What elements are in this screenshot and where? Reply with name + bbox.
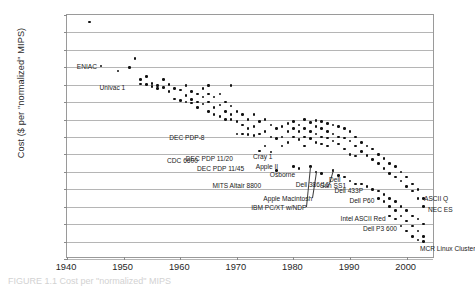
data-point <box>117 70 120 73</box>
data-point <box>241 124 244 127</box>
data-point <box>230 113 233 116</box>
data-point <box>354 183 357 186</box>
annotation-label: ENIAC <box>77 62 97 69</box>
data-point <box>343 137 346 140</box>
data-point <box>349 140 352 143</box>
data-point <box>422 240 425 243</box>
x-tick-label: 1990 <box>324 262 374 272</box>
x-tick-label: 1960 <box>154 262 204 272</box>
data-point <box>417 218 420 221</box>
annotation-label: Apple II <box>256 162 278 169</box>
data-point <box>343 148 346 151</box>
data-point <box>303 127 306 130</box>
x-tick-label: 1950 <box>98 262 148 272</box>
data-point <box>337 125 340 128</box>
annotation-label: DEC PDP-8 <box>169 134 204 141</box>
data-point <box>337 143 340 146</box>
gridline <box>67 50 433 51</box>
data-point <box>354 155 357 158</box>
data-point <box>264 145 267 148</box>
data-point <box>371 188 374 191</box>
y-tick-mark <box>64 15 67 16</box>
gridline <box>67 32 433 33</box>
gridline <box>67 172 433 173</box>
data-point <box>139 78 142 81</box>
gridline <box>67 207 433 208</box>
data-point <box>196 93 199 96</box>
data-point <box>411 215 414 218</box>
data-point <box>219 93 222 96</box>
annotation-label: IBM PC/XT w/NDP <box>251 203 306 210</box>
data-point <box>388 162 391 165</box>
data-point <box>298 124 301 127</box>
data-point <box>388 205 391 208</box>
data-point <box>422 205 425 208</box>
x-tick-label: 1980 <box>267 262 317 272</box>
data-point <box>196 106 199 109</box>
data-point <box>281 145 284 148</box>
gridline <box>67 259 433 260</box>
data-point <box>411 183 414 186</box>
y-tick-mark <box>64 32 67 33</box>
y-tick-mark <box>64 207 67 208</box>
y-tick-mark <box>64 224 67 225</box>
data-point <box>236 133 239 136</box>
data-point <box>241 113 244 116</box>
data-point <box>241 133 244 136</box>
data-point <box>360 141 363 144</box>
y-tick-mark <box>64 120 67 121</box>
data-point <box>343 127 346 130</box>
annotation-label: Osborne <box>270 170 295 177</box>
data-point <box>332 133 335 136</box>
x-tick-label: 1970 <box>211 262 261 272</box>
y-tick-mark <box>64 67 67 68</box>
y-tick-mark <box>64 50 67 51</box>
data-point <box>298 138 301 141</box>
data-point <box>298 130 301 133</box>
data-point <box>258 133 261 136</box>
gridline <box>67 137 433 138</box>
data-point <box>383 167 386 170</box>
data-point <box>247 133 250 136</box>
data-point <box>258 150 261 153</box>
annotation-label: NEC ES <box>428 205 453 212</box>
data-point <box>388 215 391 218</box>
data-point <box>405 230 408 233</box>
gridline <box>67 120 433 121</box>
data-point <box>377 162 380 165</box>
data-point <box>230 105 233 108</box>
data-point <box>360 183 363 186</box>
data-point <box>400 180 403 183</box>
data-point <box>151 85 154 88</box>
data-point <box>292 127 295 130</box>
x-tick-mark <box>124 257 125 260</box>
annotation-label: DEC PDP 11/45 <box>197 164 244 171</box>
data-point <box>247 127 250 130</box>
data-point <box>388 197 391 200</box>
data-point <box>173 87 176 90</box>
data-point <box>366 185 369 188</box>
data-point <box>213 106 216 109</box>
gridline <box>67 67 433 68</box>
data-point <box>315 125 318 128</box>
data-point <box>417 230 420 233</box>
data-point <box>88 21 91 24</box>
y-tick-mark <box>64 172 67 173</box>
data-point <box>417 188 420 191</box>
gridline <box>67 102 433 103</box>
data-point <box>134 57 137 60</box>
data-point <box>405 176 408 179</box>
annotation-label: Dell P60 <box>349 197 374 204</box>
data-point <box>190 102 193 105</box>
data-point <box>128 66 131 69</box>
data-point <box>411 235 414 238</box>
y-tick-mark <box>64 102 67 103</box>
data-point <box>156 87 159 90</box>
data-point <box>371 148 374 151</box>
data-point <box>411 190 414 193</box>
data-point <box>360 150 363 153</box>
data-point <box>145 83 148 86</box>
data-point <box>411 225 414 228</box>
data-point <box>236 120 239 123</box>
